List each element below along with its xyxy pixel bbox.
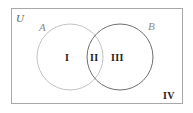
set-a-label: A [39, 22, 46, 33]
region-label-ii: II [90, 53, 98, 63]
set-b-label: B [148, 21, 155, 32]
region-label-iv: IV [163, 91, 175, 101]
region-label-iii: III [111, 53, 124, 63]
universe-label: U [16, 13, 24, 24]
region-label-i: I [65, 53, 69, 63]
venn-diagram-figure: U A B I II III IV [0, 0, 193, 113]
